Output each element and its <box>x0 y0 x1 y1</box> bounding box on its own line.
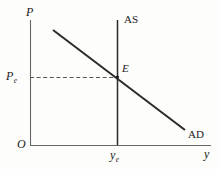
equilibrium-output-subscript: e <box>116 155 119 164</box>
equilibrium-price-base: P <box>6 69 13 83</box>
equilibrium-price-subscript: e <box>14 76 17 85</box>
x-axis-label: y <box>204 148 209 160</box>
ad-curve <box>53 30 185 130</box>
equilibrium-output-label: ye <box>110 149 119 161</box>
equilibrium-output-base: y <box>110 148 115 162</box>
ad-curve-label: AD <box>188 129 204 140</box>
as-ad-chart: P O y Pe ye AS AD E <box>0 0 221 169</box>
chart-canvas <box>0 0 221 169</box>
equilibrium-price-label: Pe <box>6 70 17 82</box>
origin-label: O <box>17 138 26 150</box>
as-curve-label: AS <box>124 14 138 25</box>
y-axis-label: P <box>26 6 33 18</box>
equilibrium-point-marker <box>116 75 119 78</box>
equilibrium-point-label: E <box>122 63 129 74</box>
